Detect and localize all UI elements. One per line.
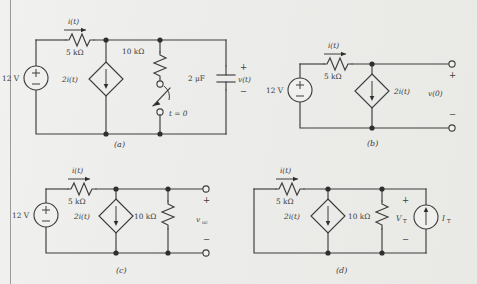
resistor-10k-a-label: 10 kΩ [122,47,144,56]
resistor-10k-d [376,201,388,229]
output-label-a: v(t) [238,75,251,84]
output-plus-c: + [203,195,210,205]
current-arrow-d [276,177,298,181]
output-label-c: v oc [196,215,208,225]
page-background: i(t) 5 kΩ 12 V 2i(t) [0,0,477,284]
output-plus-d: + [402,195,409,205]
dependent-source-a [89,62,123,96]
resistor-10k-c-label: 10 kΩ [134,212,156,221]
resistor-5k-d-label: 5 kΩ [276,197,294,206]
svg-text:T: T [403,218,407,224]
dependent-source-d-label: 2i(t) [283,212,300,221]
resistor-5k-d [276,183,304,195]
circuit-b: i(t) 5 kΩ 12 V 2i(t) [272,38,472,148]
output-minus-b: − [449,109,456,119]
dependent-source-a-label: 2i(t) [61,75,78,84]
svg-text:T: T [447,218,451,224]
output-minus-c: − [203,234,210,244]
resistor-5k-b [324,58,352,70]
caption-b: (b) [367,139,378,148]
voltage-source-a [24,66,48,90]
current-label-c: i(t) [72,166,83,175]
output-plus-b: + [449,70,456,80]
caption-a: (a) [114,140,125,149]
output-plus-a: + [240,62,247,72]
dependent-source-d [311,199,345,233]
dependent-source-c [99,199,133,233]
caption-c: (c) [116,266,127,275]
resistor-5k-a [66,34,94,46]
current-label-b: i(t) [328,41,339,50]
circuit-a: i(t) 5 kΩ 12 V 2i(t) [14,8,242,148]
current-label-a: i(t) [68,17,79,26]
resistor-5k-a-label: 5 kΩ [66,48,84,57]
resistor-5k-c [68,183,96,195]
svg-text:v: v [196,215,201,224]
switch-a-label: t = 0 [169,109,188,118]
test-current-label-d: I T [441,214,451,224]
resistor-10k-a [154,52,166,80]
voltage-source-b-label: 12 V [266,86,284,95]
resistor-5k-b-label: 5 kΩ [324,72,342,81]
resistor-10k-c [162,201,174,229]
current-arrow-a [64,28,86,32]
dependent-source-b [355,74,389,108]
svg-text:I: I [441,214,446,223]
circuit-c: i(t) 5 kΩ 12 V 2i(t) [16,163,226,275]
output-minus-a: − [240,86,247,96]
output-minus-d: − [402,234,409,244]
resistor-5k-c-label: 5 kΩ [68,197,86,206]
svg-text:V: V [396,214,402,223]
current-arrow-b [324,52,346,56]
current-arrow-c [68,177,90,181]
capacitor-a-label: 2 μF [188,74,205,83]
voltage-source-a-label: 12 V [2,74,20,83]
margin-rule [10,0,11,284]
current-source-d [414,205,438,229]
voltage-source-c [34,203,58,227]
capacitor-a [217,66,235,90]
voltage-source-c-label: 12 V [12,211,30,220]
dependent-source-c-label: 2i(t) [73,212,90,221]
current-label-d: i(t) [280,166,291,175]
caption-d: (d) [336,266,347,275]
svg-text:oc: oc [202,219,208,225]
test-voltage-label-d: V T [396,214,407,224]
circuit-d: i(t) 5 kΩ 2i(t) 10 kΩ [236,163,464,275]
voltage-source-b [288,78,312,102]
dependent-source-b-label: 2i(t) [393,87,410,96]
resistor-10k-d-label: 10 kΩ [348,212,370,221]
output-label-b: v(0) [428,89,443,98]
switch-a[interactable] [153,81,170,115]
